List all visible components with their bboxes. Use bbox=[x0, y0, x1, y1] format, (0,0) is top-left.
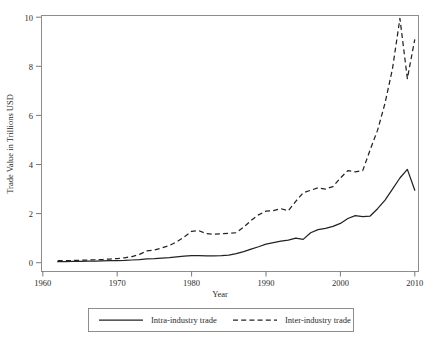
chart-legend: Intra-industry trade Inter-industry trad… bbox=[89, 309, 354, 332]
y-tick-label: 6 bbox=[29, 111, 33, 121]
y-axis-title: Trade Value in Trillions USD bbox=[5, 94, 15, 194]
chart-figure: Trade Value in Trillions USD 10 8 6 4 2 … bbox=[0, 0, 434, 339]
x-tick-label: 1970 bbox=[109, 278, 126, 288]
x-tick-label: 2000 bbox=[332, 278, 349, 288]
legend-label-inter-industry-trade: Inter-industry trade bbox=[285, 315, 351, 325]
y-tick-label: 0 bbox=[29, 258, 33, 268]
x-tick-label: 1990 bbox=[258, 278, 275, 288]
x-tick-label: 1980 bbox=[183, 278, 200, 288]
y-tick-label: 8 bbox=[29, 62, 33, 72]
y-tick-label: 10 bbox=[25, 13, 34, 23]
x-tick-label: 1960 bbox=[34, 278, 51, 288]
x-axis-title: Year bbox=[212, 289, 228, 299]
x-tick-label: 2010 bbox=[406, 278, 423, 288]
trade-value-line-chart: Trade Value in Trillions USD 10 8 6 4 2 … bbox=[0, 0, 434, 339]
legend-label-intra-industry-trade: Intra-industry trade bbox=[151, 315, 217, 325]
y-tick-label: 2 bbox=[29, 209, 33, 219]
